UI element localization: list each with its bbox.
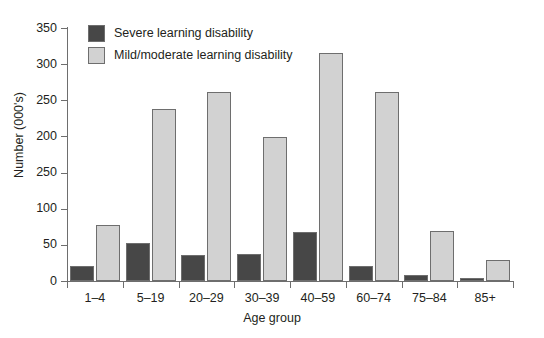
y-axis-tick-label: 50 — [13, 238, 57, 251]
x-axis-group-label: 40–59 — [290, 291, 346, 305]
bar-severe — [181, 255, 205, 281]
bar-severe — [126, 243, 150, 281]
y-axis-tick — [61, 100, 67, 101]
legend-swatch-severe-icon — [88, 25, 105, 42]
x-axis-tick — [290, 282, 291, 288]
y-axis-title: Number (000's) — [12, 80, 26, 190]
x-axis-group-label: 30–39 — [234, 291, 290, 305]
bar-severe — [70, 266, 94, 281]
y-axis-tick-label: 300 — [13, 58, 57, 71]
bar-mild — [263, 137, 287, 281]
x-axis-group-label: 5–19 — [123, 291, 179, 305]
bar-severe — [237, 254, 261, 281]
x-axis-group-label: 1–4 — [67, 291, 123, 305]
bar-severe — [293, 232, 317, 281]
x-axis-tick — [67, 282, 68, 288]
x-axis-title: Age group — [0, 311, 544, 325]
legend-item-mild: Mild/moderate learning disability — [88, 44, 293, 66]
bar-mild — [207, 92, 231, 281]
x-axis-group-label: 60–74 — [346, 291, 402, 305]
x-axis-tick — [234, 282, 235, 288]
x-axis-group-label: 85+ — [457, 291, 513, 305]
x-axis-tick — [346, 282, 347, 288]
y-axis-tick — [61, 245, 67, 246]
chart-legend: Severe learning disability Mild/moderate… — [88, 22, 293, 66]
x-axis-group-label: 20–29 — [179, 291, 235, 305]
legend-label-mild: Mild/moderate learning disability — [114, 48, 293, 62]
x-axis-tick — [179, 282, 180, 288]
bar-chart-figure: 050100250200250300350 Number (000's) Age… — [0, 0, 544, 338]
legend-label-severe: Severe learning disability — [114, 26, 253, 40]
bar-severe — [349, 266, 373, 281]
bar-mild — [486, 260, 510, 281]
x-axis-tick — [513, 282, 514, 288]
bar-mild — [430, 231, 454, 281]
bar-severe — [404, 275, 428, 282]
bar-severe — [460, 278, 484, 281]
bar-mild — [319, 53, 343, 281]
bar-mild — [375, 92, 399, 281]
y-axis-tick — [61, 173, 67, 174]
x-axis-tick — [457, 282, 458, 288]
bar-mild — [96, 225, 120, 281]
y-axis-tick — [61, 64, 67, 65]
x-axis-tick — [402, 282, 403, 288]
legend-item-severe: Severe learning disability — [88, 22, 293, 44]
y-axis-tick — [61, 209, 67, 210]
bar-mild — [152, 109, 176, 281]
y-axis-tick — [61, 28, 67, 29]
y-axis-tick-label: 350 — [13, 22, 57, 35]
legend-swatch-mild-icon — [88, 47, 105, 64]
y-axis-tick-label: 0 — [13, 275, 57, 288]
x-axis-group-label: 75–84 — [402, 291, 458, 305]
y-axis-tick-label: 100 — [13, 202, 57, 215]
x-axis-tick — [123, 282, 124, 288]
y-axis-tick — [61, 136, 67, 137]
